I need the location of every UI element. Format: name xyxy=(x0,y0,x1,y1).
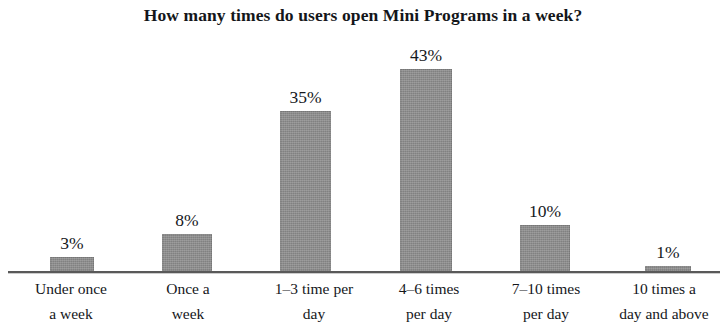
bar-value-label: 10% xyxy=(494,201,596,222)
bar xyxy=(400,69,452,271)
plot-area: 3% 8% 35% 43% 10% 1% xyxy=(0,32,726,273)
bar-group: 8% xyxy=(162,32,212,273)
category-label: 7–10 times per day xyxy=(482,276,610,326)
category-axis-labels: Under once a week Once a week 1–3 time p… xyxy=(0,276,726,332)
bar-chart-figure: How many times do users open Mini Progra… xyxy=(0,0,726,332)
bar xyxy=(162,234,212,271)
bar xyxy=(50,257,94,271)
chart-title: How many times do users open Mini Progra… xyxy=(0,5,726,26)
bar-group: 1% xyxy=(645,32,691,273)
category-label: Under once a week xyxy=(6,276,136,326)
bar xyxy=(280,111,331,271)
bar xyxy=(645,266,691,271)
bar-group: 43% xyxy=(400,32,452,273)
category-label: 10 times a day and above xyxy=(602,276,726,326)
bar-value-label: 3% xyxy=(24,233,120,254)
bar xyxy=(520,225,570,271)
category-label: 4–6 times per day xyxy=(366,276,492,326)
bar-value-label: 35% xyxy=(254,87,357,108)
category-axis-line xyxy=(8,271,720,273)
bar-value-label: 8% xyxy=(136,210,238,231)
bar-group: 35% xyxy=(280,32,331,273)
bar-group: 10% xyxy=(520,32,570,273)
bar-group: 3% xyxy=(50,32,94,273)
bar-value-label: 43% xyxy=(374,45,478,66)
category-label: Once a week xyxy=(126,276,250,326)
bar-value-label: 1% xyxy=(619,242,717,263)
